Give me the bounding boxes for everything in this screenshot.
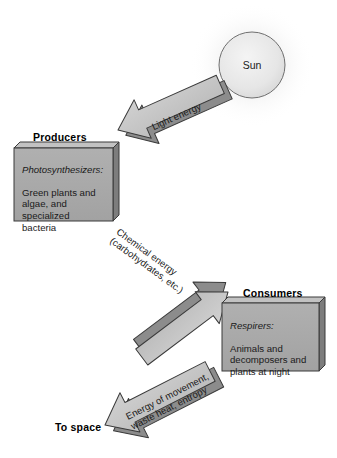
- producers-body-lines: Green plants and algae, and specialized …: [22, 187, 96, 233]
- producers-italic-line: Photosynthesizers:: [22, 164, 103, 175]
- producers-body-text: Photosynthesizers: Green plants and alga…: [22, 152, 114, 233]
- to-space-label: To space: [55, 421, 101, 433]
- energy-flow-diagram: Sun Producers Photosynthesizers: Green p…: [0, 0, 337, 458]
- consumers-heading: Consumers: [243, 287, 303, 299]
- consumers-italic-line: Respirers:: [230, 320, 274, 331]
- sun-label: Sun: [243, 59, 262, 71]
- consumers-body-lines: Animals and decomposers and plants at ni…: [230, 343, 306, 377]
- producers-heading: Producers: [33, 131, 87, 143]
- consumers-body-text: Respirers: Animals and decomposers and p…: [230, 308, 322, 378]
